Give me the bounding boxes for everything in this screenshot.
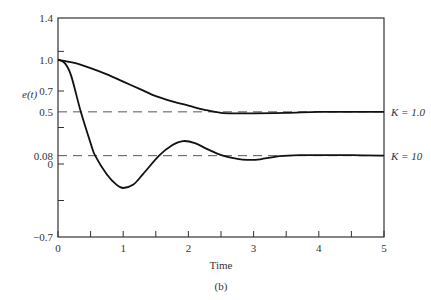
step-response-chart: 1.41.00.70.50.080−0.7 012345 K = 1.0K = … xyxy=(0,0,431,300)
reference-lines xyxy=(58,112,384,156)
x-tick-label: 5 xyxy=(381,242,387,254)
curve-k-10 xyxy=(58,60,384,188)
series-labels: K = 1.0K = 10 xyxy=(390,106,426,162)
series-label: K = 10 xyxy=(390,150,423,162)
y-tick-label: −0.7 xyxy=(33,231,53,243)
y-tick-label: 0.5 xyxy=(39,106,53,118)
y-tick-label: 0 xyxy=(48,158,54,170)
x-tick-label: 1 xyxy=(120,242,126,254)
curve-k-1-0 xyxy=(58,60,384,114)
plot-frame xyxy=(58,18,384,237)
y-axis-title: e(t) xyxy=(22,88,38,101)
x-tick-label: 2 xyxy=(186,242,192,254)
x-tick-label: 3 xyxy=(251,242,257,254)
response-curves xyxy=(58,60,384,188)
y-tick-label: 0.7 xyxy=(39,85,53,97)
y-tick-label: 1.4 xyxy=(39,12,53,24)
y-axis-ticks: 1.41.00.70.50.080−0.7 xyxy=(33,12,64,243)
series-label: K = 1.0 xyxy=(390,106,426,118)
x-tick-label: 0 xyxy=(55,242,61,254)
figure-caption: (b) xyxy=(215,280,228,293)
x-axis-title: Time xyxy=(210,259,233,271)
plot-border xyxy=(58,18,384,237)
x-axis-ticks: 012345 xyxy=(55,231,387,254)
y-tick-label: 1.0 xyxy=(39,54,53,66)
x-tick-label: 4 xyxy=(316,242,322,254)
